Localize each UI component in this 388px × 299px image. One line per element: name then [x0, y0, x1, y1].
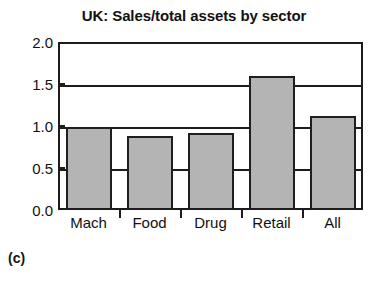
- bar: [127, 136, 173, 210]
- y-tick-label: 1.5: [0, 76, 53, 93]
- figure-caption: (c): [8, 250, 25, 266]
- x-tick-label: Food: [119, 214, 180, 231]
- bar: [66, 127, 112, 210]
- x-tick-mark: [119, 210, 121, 218]
- y-tick-mark: [58, 83, 65, 85]
- x-tick-label: All: [302, 214, 363, 231]
- x-tick-label: Drug: [180, 214, 241, 231]
- x-tick-mark: [180, 210, 182, 218]
- y-tick-label: 2.0: [0, 34, 53, 51]
- bars-group: [58, 42, 363, 210]
- x-tick-mark: [302, 210, 304, 218]
- y-tick-label: 1.0: [0, 118, 53, 135]
- bar: [249, 76, 295, 210]
- x-tick-label: Mach: [58, 214, 119, 231]
- x-tick-label: Retail: [241, 214, 302, 231]
- y-tick-label: 0.0: [0, 202, 53, 219]
- y-tick-mark: [58, 125, 65, 127]
- y-axis: 0.00.51.01.52.0: [0, 42, 53, 210]
- y-tick-mark: [58, 167, 65, 169]
- chart-figure: UK: Sales/total assets by sector 0.00.51…: [0, 0, 388, 299]
- bar: [310, 116, 356, 210]
- x-tick-mark: [241, 210, 243, 218]
- y-tick-label: 0.5: [0, 160, 53, 177]
- chart-title: UK: Sales/total assets by sector: [0, 7, 388, 24]
- x-axis: MachFoodDrugRetailAll: [58, 214, 363, 238]
- bar: [188, 133, 234, 210]
